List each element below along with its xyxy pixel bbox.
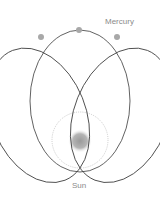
sun-icon (68, 129, 92, 153)
mercury-label: Mercury (105, 17, 134, 26)
mercury-dot-right (114, 34, 120, 40)
mercury-dot-left (38, 34, 44, 40)
orbit-right (51, 33, 160, 198)
sun-label: Sun (72, 181, 86, 190)
mercury-precession-diagram (0, 0, 160, 199)
orbit-left (0, 33, 109, 198)
mercury-dot-center (76, 27, 82, 33)
